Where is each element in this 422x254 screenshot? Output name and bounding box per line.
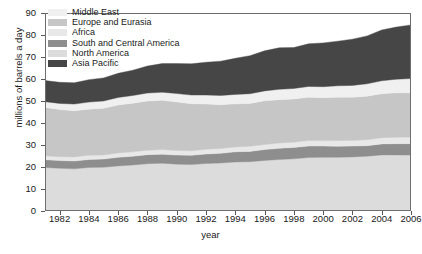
x-tick-1988: 1988 <box>137 214 158 224</box>
x-tickmark-1982 <box>60 211 61 215</box>
x-tick-1996: 1996 <box>254 214 275 224</box>
x-tickmark-1998 <box>294 211 295 215</box>
legend-swatch-icon <box>48 50 67 57</box>
x-tick-1984: 1984 <box>78 214 99 224</box>
x-tickmark-1988 <box>147 211 148 215</box>
x-tick-2000: 2000 <box>313 214 334 224</box>
x-tickmark-1990 <box>177 211 178 215</box>
x-tickmark-1992 <box>206 211 207 215</box>
legend-swatch-icon <box>48 40 67 47</box>
x-tick-1990: 1990 <box>166 214 187 224</box>
x-tickmark-1986 <box>118 211 119 215</box>
x-tickmark-2000 <box>323 211 324 215</box>
x-tickmark-2002 <box>352 211 353 215</box>
x-tick-2006: 2006 <box>400 214 421 224</box>
legend: Middle EastEurope and EurasiaAfricaSouth… <box>48 7 183 70</box>
legend-swatch-icon <box>48 60 67 67</box>
legend-item-south-and-central-america: South and Central America <box>48 38 180 48</box>
legend-item-asia-pacific: Asia Pacific <box>48 58 180 68</box>
x-tickmark-1996 <box>265 211 266 215</box>
x-axis-title: year <box>0 229 421 240</box>
x-tick-1998: 1998 <box>283 214 304 224</box>
legend-item-label: Africa <box>72 28 95 37</box>
x-tick-1986: 1986 <box>108 214 129 224</box>
legend-item-north-america: North America <box>48 48 180 58</box>
legend-swatch-icon <box>48 19 67 26</box>
x-tick-1982: 1982 <box>49 214 70 224</box>
x-tick-1994: 1994 <box>225 214 246 224</box>
x-tick-2002: 2002 <box>342 214 363 224</box>
x-tick-1992: 1992 <box>195 214 216 224</box>
x-tickmark-2006 <box>411 211 412 215</box>
legend-swatch-icon <box>48 9 67 16</box>
x-tickmark-1994 <box>235 211 236 215</box>
x-tickmark-2004 <box>382 211 383 215</box>
legend-item-europe-and-eurasia: Europe and Eurasia <box>48 18 180 28</box>
x-tick-2004: 2004 <box>371 214 392 224</box>
legend-item-label: Asia Pacific <box>72 59 119 68</box>
x-tickmark-1984 <box>89 211 90 215</box>
legend-item-label: Middle East <box>72 8 119 17</box>
legend-item-middle-east: Middle East <box>48 8 180 18</box>
legend-swatch-icon <box>48 29 67 36</box>
legend-item-label: North America <box>72 49 129 58</box>
legend-item-africa: Africa <box>48 28 180 38</box>
legend-item-label: South and Central America <box>72 39 180 48</box>
legend-item-label: Europe and Eurasia <box>72 18 152 27</box>
